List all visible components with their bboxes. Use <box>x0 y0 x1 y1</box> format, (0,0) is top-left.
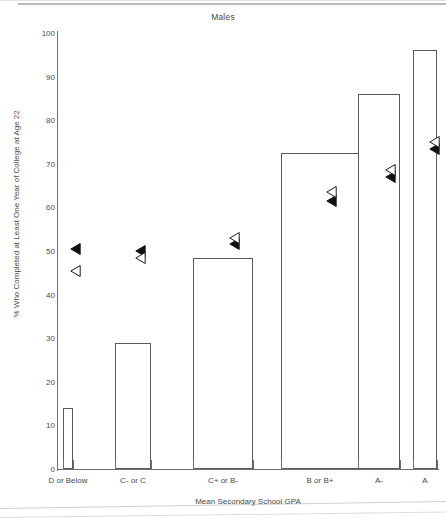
x-axis-tick <box>63 460 64 469</box>
y-tick-label: 60 <box>29 203 55 212</box>
bar <box>358 94 400 469</box>
y-tick-label: 10 <box>29 421 55 430</box>
y-tick-label: 20 <box>29 377 55 386</box>
x-axis-category-label: C- or C <box>120 476 146 485</box>
x-axis-category-label: C+ or B- <box>208 476 238 485</box>
x-axis-tick <box>281 460 282 469</box>
open-left-triangle-marker <box>70 264 81 277</box>
x-axis-category-label: A- <box>375 476 383 485</box>
y-tick-label: 100 <box>29 29 55 38</box>
filled-left-triangle-marker <box>70 242 81 255</box>
x-axis-tick <box>151 460 152 469</box>
bar <box>115 343 151 469</box>
bar <box>193 258 253 469</box>
x-axis-tick <box>115 460 116 469</box>
open-left-triangle-marker <box>385 164 396 177</box>
y-axis-tick-labels: 0102030405060708090100 <box>26 0 55 525</box>
x-axis-tick <box>253 460 254 469</box>
y-tick-label: 40 <box>29 290 55 299</box>
x-axis-category-label: A <box>422 476 427 485</box>
scan-artifact-top-hairline <box>0 0 446 1</box>
x-axis-line <box>57 469 439 470</box>
scan-artifact-bottom-line-2 <box>0 512 446 518</box>
bar <box>413 50 437 469</box>
x-axis-tick <box>437 460 438 469</box>
open-left-triangle-marker <box>229 231 240 244</box>
x-axis-tick <box>413 460 414 469</box>
open-left-triangle-marker <box>135 251 146 264</box>
bar <box>63 408 73 469</box>
open-left-triangle-marker <box>429 136 440 149</box>
x-axis-tick <box>73 460 74 469</box>
plot-area <box>57 33 437 469</box>
y-axis-title: % Who Completed at Least One Year of Col… <box>12 118 21 318</box>
x-axis-tick <box>193 460 194 469</box>
y-tick-label: 30 <box>29 334 55 343</box>
y-tick-label: 50 <box>29 247 55 256</box>
y-tick-label: 0 <box>29 465 55 474</box>
bar <box>281 153 359 469</box>
y-tick-label: 90 <box>29 72 55 81</box>
x-axis-category-label: B or B+ <box>307 476 334 485</box>
y-tick-label: 80 <box>29 116 55 125</box>
x-axis-tick <box>400 460 401 469</box>
chart-title: Males <box>0 12 446 22</box>
y-tick-label: 70 <box>29 159 55 168</box>
x-axis-title: Mean Secondary School GPA <box>57 497 439 506</box>
x-axis-tick <box>358 460 359 469</box>
open-left-triangle-marker <box>326 186 337 199</box>
scan-artifact-top-line <box>18 3 446 5</box>
x-axis-category-label: D or Below <box>48 476 87 485</box>
